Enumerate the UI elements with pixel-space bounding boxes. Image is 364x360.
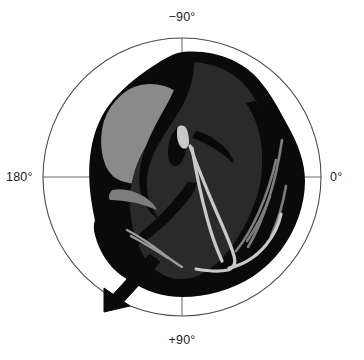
figure-canvas — [0, 0, 364, 360]
axis-label-left: 180° — [6, 171, 33, 184]
polar-cardiac-figure: −90° 0° +90° 180° — [0, 0, 364, 360]
axis-label-right: 0° — [330, 171, 342, 184]
heart-cross-section — [89, 52, 305, 297]
axis-label-top: −90° — [0, 11, 364, 24]
axis-label-bottom: +90° — [0, 334, 364, 347]
